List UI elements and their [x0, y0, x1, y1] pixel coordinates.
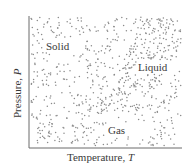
x-axis-label: Temperature, [67, 151, 125, 163]
phase-diagram [0, 0, 191, 165]
x-axis-symbol: T [128, 151, 134, 163]
region-label-gas: Gas [108, 125, 125, 136]
y-axis-label: Pressure, [11, 78, 23, 118]
x-axis-title: Temperature, T [67, 152, 134, 163]
region-label-liquid: Liquid [138, 62, 167, 73]
y-axis-title: Pressure, P [12, 68, 23, 118]
stipple-dots [30, 17, 181, 147]
region-label-solid: Solid [46, 41, 69, 52]
y-axis-symbol: P [11, 68, 23, 75]
